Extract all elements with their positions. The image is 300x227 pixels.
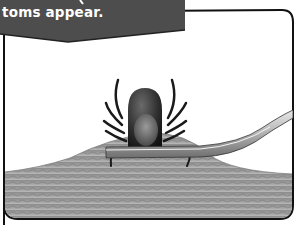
caption-text: toms appear. (2, 4, 104, 20)
illustration-panel: toms appear. (0, 0, 300, 227)
illustration-svg (0, 0, 300, 227)
